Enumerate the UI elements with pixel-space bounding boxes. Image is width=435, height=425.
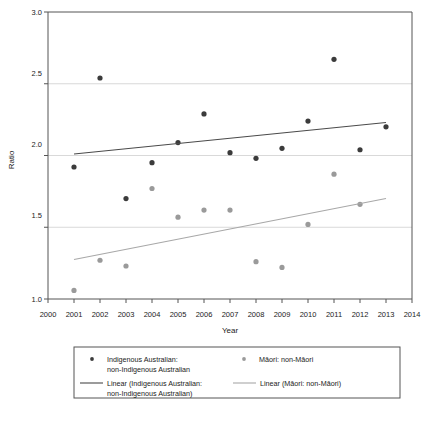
data-point-series1-2003 [123,263,128,268]
legend-marker-maori [242,357,246,361]
x-tick-label-2007: 2007 [222,310,239,319]
data-point-series0-2002 [97,75,102,80]
data-point-series0-2009 [279,146,284,151]
x-tick-label-2009: 2009 [274,310,291,319]
data-point-series0-2010 [305,118,310,123]
x-tick-label-2014: 2014 [404,310,421,319]
data-point-series0-2013 [383,124,388,129]
x-tick-label-2001: 2001 [66,310,83,319]
y-tick-label-1.0: 1.0 [32,295,42,304]
y-axis-title: Ratio [7,150,16,169]
data-point-series1-2001 [71,288,76,293]
data-point-series1-2004 [149,186,154,191]
x-tick-label-2012: 2012 [352,310,369,319]
y-tick-label-2.0: 2.0 [32,140,42,149]
data-point-series0-2011 [331,57,336,62]
data-point-series1-2002 [97,258,102,263]
data-point-series1-2006 [201,207,206,212]
ratio-scatter-chart: 3.0 2.5 2.0 1.5 1.0 Ratio 2000 2001 2002… [0,0,435,425]
legend-marker-indigenous-australian [90,357,94,361]
data-point-series1-2010 [305,222,310,227]
legend-label-linear-indigenous-australian-line1: Linear (Indigenous Australian: [107,379,202,388]
data-point-series1-2005 [175,215,180,220]
x-tick-label-2006: 2006 [196,310,213,319]
x-tick-label-2010: 2010 [300,310,317,319]
x-tick-label-2013: 2013 [378,310,395,319]
legend-label-linear-indigenous-australian-line2: non-Indigenous Australian) [107,389,193,398]
x-tick-label-2002: 2002 [92,310,109,319]
data-point-series1-2009 [279,265,284,270]
data-point-series0-2001 [71,164,76,169]
data-point-series0-2008 [253,156,258,161]
data-point-series0-2004 [149,160,154,165]
data-point-series0-2007 [227,150,232,155]
x-tick-label-2011: 2011 [326,310,342,319]
legend-label-indigenous-australian-line1: Indigenous Australian: [107,355,178,364]
x-axis-title: Year [222,326,239,335]
legend-label-indigenous-australian-line2: non-Indigenous Australian [107,365,190,374]
data-point-series1-2007 [227,207,232,212]
x-tick-label-2004: 2004 [144,310,161,319]
x-tick-label-2000: 2000 [40,310,57,319]
y-tick-label-2.5: 2.5 [32,69,42,78]
chart-background [0,0,435,425]
x-tick-label-2005: 2005 [170,310,187,319]
data-point-series0-2006 [201,111,206,116]
legend-label-linear-maori: Linear (Māori: non-Māori) [260,379,341,388]
data-point-series0-2005 [175,140,180,145]
y-tick-label-1.5: 1.5 [32,211,42,220]
data-point-series1-2011 [331,172,336,177]
y-tick-label-3.0: 3.0 [32,8,42,17]
data-point-series1-2008 [253,259,258,264]
x-tick-label-2003: 2003 [118,310,135,319]
x-tick-label-2008: 2008 [248,310,265,319]
data-point-series0-2003 [123,196,128,201]
data-point-series0-2012 [357,147,362,152]
legend-label-maori: Māori: non-Māori [259,355,314,364]
